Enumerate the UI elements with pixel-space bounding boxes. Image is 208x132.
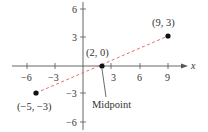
x-tick-label: 3 (111, 72, 116, 83)
x-tick-label: 9 (165, 72, 170, 83)
point-label-endpoint-b: (9, 3) (152, 17, 175, 29)
x-tick-label: −3 (48, 72, 59, 83)
y-tick-label: 6 (72, 4, 77, 15)
x-axis-arrow-icon (181, 64, 188, 69)
y-tick-label: −6 (66, 117, 77, 128)
y-tick-label: 3 (72, 32, 77, 43)
point-label-endpoint-a: (−5, −3) (17, 101, 52, 113)
point-midpoint (99, 63, 104, 68)
midpoint-leader-line (102, 69, 106, 97)
point-endpoint-a (33, 90, 38, 95)
y-tick-label: −3 (66, 88, 77, 99)
x-tick-label: 6 (137, 72, 142, 83)
point-label-midpoint: (2, 0) (86, 47, 109, 59)
coordinate-plane-diagram: x −6 −3 3 6 9 6 3 −3 −6 (0, 0, 208, 132)
point-endpoint-b (165, 33, 170, 38)
x-axis-label: x (190, 60, 196, 71)
midpoint-annotation: Midpoint (92, 99, 131, 110)
x-tick-label: −6 (21, 72, 32, 83)
